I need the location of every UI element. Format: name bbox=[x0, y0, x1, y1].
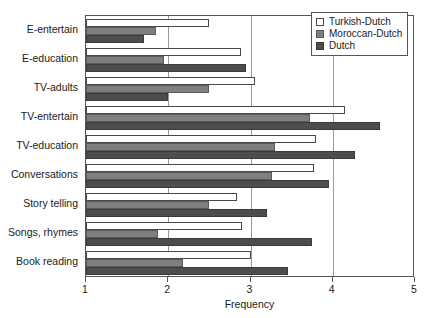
bar[interactable] bbox=[86, 114, 310, 122]
y-axis-label: TV-education bbox=[0, 140, 78, 151]
legend-label: Moroccan-Dutch bbox=[329, 28, 402, 40]
bar[interactable] bbox=[86, 164, 314, 172]
bar[interactable] bbox=[86, 259, 183, 267]
bar[interactable] bbox=[86, 77, 255, 85]
bar-group bbox=[86, 162, 413, 191]
bar[interactable] bbox=[86, 201, 209, 209]
bar[interactable] bbox=[86, 35, 144, 43]
bar[interactable] bbox=[86, 64, 246, 72]
legend-swatch-icon bbox=[316, 42, 324, 50]
bar[interactable] bbox=[86, 19, 209, 27]
legend: Turkish-Dutch Moroccan-Dutch Dutch bbox=[311, 12, 408, 56]
bar[interactable] bbox=[86, 209, 267, 217]
y-axis-label: Conversations bbox=[0, 169, 78, 180]
x-axis-title: Frequency bbox=[85, 298, 414, 310]
bar-group bbox=[86, 132, 413, 161]
x-axis-tick-label: 5 bbox=[402, 283, 426, 295]
bar-group bbox=[86, 191, 413, 220]
bar[interactable] bbox=[86, 93, 168, 101]
legend-swatch-icon bbox=[316, 30, 324, 38]
bar[interactable] bbox=[86, 106, 345, 114]
y-axis-label: Story telling bbox=[0, 198, 78, 209]
bar-group bbox=[86, 220, 413, 249]
bar[interactable] bbox=[86, 56, 164, 64]
bar[interactable] bbox=[86, 135, 316, 143]
y-axis-label: Book reading bbox=[0, 256, 78, 267]
x-axis-tick-label: 2 bbox=[155, 283, 179, 295]
bar[interactable] bbox=[86, 48, 241, 56]
legend-label: Turkish-Dutch bbox=[329, 16, 391, 28]
legend-label: Dutch bbox=[329, 40, 355, 52]
bar[interactable] bbox=[86, 222, 242, 230]
x-axis-tick-mark bbox=[85, 277, 86, 282]
bar[interactable] bbox=[86, 230, 158, 238]
bar[interactable] bbox=[86, 193, 237, 201]
bar-group bbox=[86, 249, 413, 278]
y-axis-label: E-education bbox=[0, 53, 78, 64]
bar[interactable] bbox=[86, 143, 275, 151]
y-axis-label: TV-adults bbox=[0, 82, 78, 93]
bar[interactable] bbox=[86, 172, 272, 180]
bar[interactable] bbox=[86, 85, 209, 93]
bar[interactable] bbox=[86, 122, 380, 130]
bar[interactable] bbox=[86, 267, 288, 275]
y-axis-label: E-entertain bbox=[0, 24, 78, 35]
bar[interactable] bbox=[86, 251, 251, 259]
bar[interactable] bbox=[86, 238, 312, 246]
x-axis-tick-mark bbox=[250, 277, 251, 282]
legend-item-moroccan-dutch[interactable]: Moroccan-Dutch bbox=[316, 28, 402, 40]
bar[interactable] bbox=[86, 180, 329, 188]
y-axis-label: TV-entertain bbox=[0, 111, 78, 122]
x-axis-tick-mark bbox=[167, 277, 168, 282]
x-axis-tick-label: 1 bbox=[73, 283, 97, 295]
legend-item-turkish-dutch[interactable]: Turkish-Dutch bbox=[316, 16, 402, 28]
x-axis-tick-mark bbox=[414, 277, 415, 282]
bar[interactable] bbox=[86, 27, 156, 35]
bar-group bbox=[86, 74, 413, 103]
legend-item-dutch[interactable]: Dutch bbox=[316, 40, 402, 52]
bar[interactable] bbox=[86, 151, 355, 159]
x-axis-tick-mark bbox=[332, 277, 333, 282]
bar-chart: E-entertainE-educationTV-adultsTV-entert… bbox=[0, 0, 438, 318]
x-axis-tick-label: 4 bbox=[320, 283, 344, 295]
y-axis-label: Songs, rhymes bbox=[0, 227, 78, 238]
x-axis-tick-label: 3 bbox=[238, 283, 262, 295]
legend-swatch-icon bbox=[316, 18, 324, 26]
bar-group bbox=[86, 103, 413, 132]
